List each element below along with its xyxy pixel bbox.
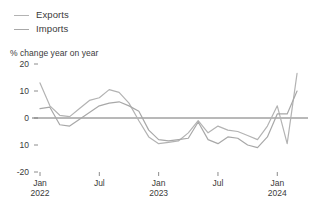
x-tick-label-year: 2023: [149, 188, 168, 198]
y-tick-label: 10: [20, 140, 30, 150]
y-tick-label: 10: [20, 86, 30, 96]
x-tick-label-year: 2024: [268, 188, 287, 198]
series-line-exports: [40, 73, 297, 143]
y-tick-label: 0: [24, 113, 29, 123]
x-tick-label-month: Jul: [94, 178, 105, 188]
chart-container: Exports Imports % change year on year 20…: [0, 0, 319, 205]
x-axis-ticks: Jan2022JulJan2023JulJan2024: [31, 172, 287, 198]
x-tick-label-month: Jan: [270, 178, 284, 188]
chart-plot-area: 2010010-20 Jan2022JulJan2023JulJan2024: [0, 0, 319, 205]
x-tick-label-month: Jul: [213, 178, 224, 188]
y-tick-label: 20: [20, 59, 30, 69]
y-tick-label: -20: [17, 167, 30, 177]
x-tick-label-year: 2022: [31, 188, 50, 198]
x-tick-label-month: Jan: [152, 178, 166, 188]
x-tick-label-month: Jan: [33, 178, 47, 188]
